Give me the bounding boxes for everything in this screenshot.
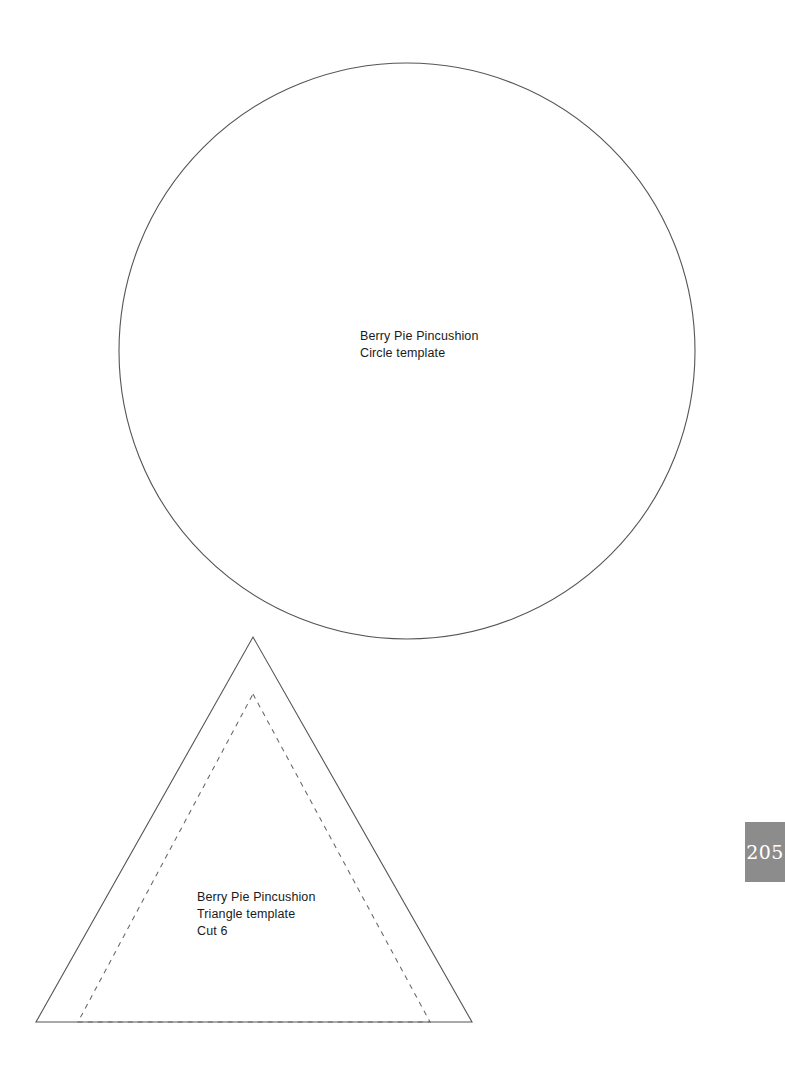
triangle-template-seam-line bbox=[78, 694, 430, 1022]
triangle-template-label-line-3: Cut 6 bbox=[197, 923, 316, 940]
triangle-template-label-line-2: Triangle template bbox=[197, 906, 316, 923]
circle-template-label: Berry Pie Pincushion Circle template bbox=[360, 328, 479, 362]
page-number-text: 205 bbox=[746, 843, 783, 862]
template-page: Berry Pie Pincushion Circle template Ber… bbox=[0, 0, 785, 1074]
triangle-template-label-line-1: Berry Pie Pincushion bbox=[197, 889, 316, 906]
circle-template-label-line-2: Circle template bbox=[360, 345, 479, 362]
page-number-badge: 205 bbox=[745, 822, 785, 882]
sewing-templates-drawing bbox=[0, 0, 785, 1074]
triangle-template-label: Berry Pie Pincushion Triangle template C… bbox=[197, 889, 316, 940]
circle-template-label-line-1: Berry Pie Pincushion bbox=[360, 328, 479, 345]
